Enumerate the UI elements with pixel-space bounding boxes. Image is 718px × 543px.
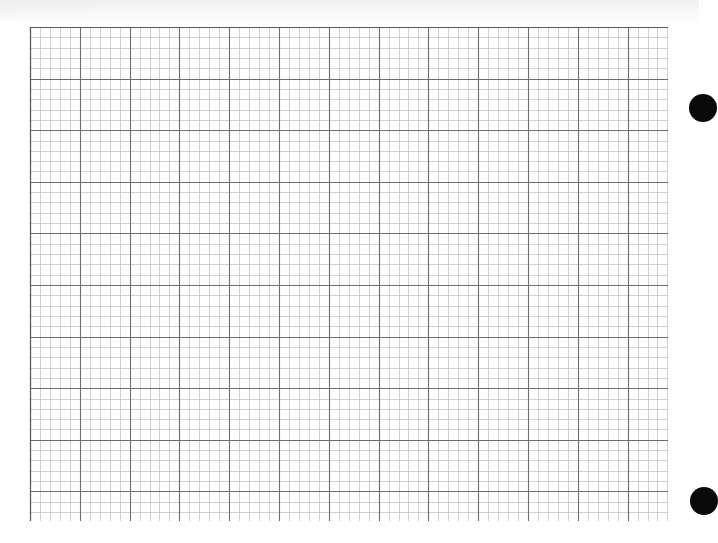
binder-hole-top	[689, 94, 717, 122]
binder-hole-bottom	[690, 487, 718, 515]
